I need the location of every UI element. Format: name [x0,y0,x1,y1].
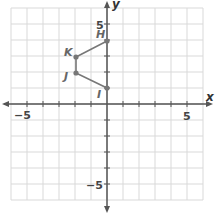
point-label-k: K [64,46,74,59]
point-j [73,70,78,75]
x-tick-label-neg5: −5 [14,109,31,122]
x-tick-label-5: 5 [183,110,191,123]
point-label-h: H [96,28,105,41]
point-i [104,85,109,90]
y-axis-label: y [112,0,121,11]
y-axis-bottom-arrow [104,206,110,213]
x-axis-label: x [205,90,215,104]
x-axis-left-arrow [2,101,9,107]
coordinate-plane: x y −5 5 5 −5 H K J I [0,0,219,216]
y-tick-label-neg5: −5 [86,179,103,192]
point-label-i: I [97,88,101,101]
point-k [73,54,78,59]
y-axis-top-arrow [104,1,110,8]
